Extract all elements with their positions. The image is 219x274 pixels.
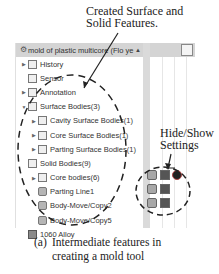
dashed-ellipse-hide-show xyxy=(136,167,190,215)
figure-caption: (a)Intermediate features in creating a m… xyxy=(34,235,161,263)
caption-tag: (a) xyxy=(34,235,52,249)
dashed-ellipse-features xyxy=(18,75,126,225)
caption-line: creating a mold tool xyxy=(34,249,161,263)
arrow-line xyxy=(84,33,118,88)
annotation-overlay xyxy=(0,0,219,274)
caption-line: Intermediate features in xyxy=(52,236,161,248)
